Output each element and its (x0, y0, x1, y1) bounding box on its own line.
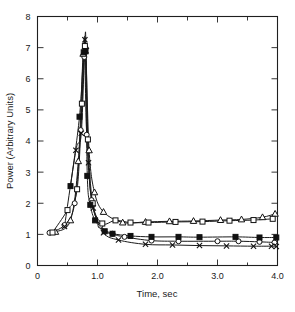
marker-filled-square (93, 218, 98, 223)
y-axis-title: Power (Arbitrary Units) (4, 93, 15, 189)
plot-frame (38, 17, 278, 266)
y-tick-label: 3 (25, 168, 30, 178)
y-tick-label: 7 (25, 43, 30, 53)
marker-filled-square (68, 184, 73, 189)
x-tick-label: 2.0 (151, 271, 164, 281)
x-axis-title: Time, sec (137, 288, 178, 299)
marker-filled-square (149, 234, 154, 239)
marker-open-square (146, 220, 151, 225)
marker-open-square (50, 230, 55, 235)
marker-open-square (65, 208, 70, 213)
marker-open-square (251, 218, 256, 223)
x-tick-label: 0 (35, 271, 40, 281)
marker-filled-square (176, 234, 181, 239)
marker-open-triangle (91, 189, 97, 195)
x-axis-tick-labels: 01.02.03.04.0 (35, 271, 284, 281)
marker-open-square (113, 218, 118, 223)
marker-open-square (128, 220, 133, 225)
y-tick-label: 1 (25, 230, 30, 240)
marker-filled-square (274, 235, 279, 240)
power-vs-time-chart: 01.02.03.04.0 012345678 Time, sec Power … (0, 0, 295, 312)
marker-open-square (173, 219, 178, 224)
x-axis-ticks (38, 17, 278, 266)
y-tick-label: 4 (25, 136, 30, 146)
marker-filled-square (197, 235, 202, 240)
y-tick-label: 5 (25, 105, 30, 115)
marker-open-square (100, 221, 105, 226)
marker-open-square (270, 216, 275, 221)
y-axis-tick-labels: 012345678 (25, 12, 30, 271)
x-tick-label: 4.0 (271, 271, 284, 281)
y-tick-label: 2 (25, 199, 30, 209)
curve-filled-square (71, 40, 277, 238)
x-tick-label: 3.0 (211, 271, 224, 281)
marker-open-square (82, 44, 87, 49)
x-tick-label: 1.0 (91, 271, 104, 281)
data-markers (47, 37, 279, 249)
marker-open-square (85, 137, 90, 142)
marker-filled-square (77, 114, 82, 119)
y-tick-label: 0 (25, 261, 30, 271)
figure-container: 01.02.03.04.0 012345678 Time, sec Power … (0, 0, 295, 312)
curve-cross-x (65, 32, 277, 247)
marker-filled-square (128, 233, 133, 238)
marker-open-circle (215, 239, 220, 244)
data-curves (50, 32, 277, 247)
marker-open-square (79, 101, 84, 106)
y-tick-label: 6 (25, 74, 30, 84)
marker-open-circle (72, 201, 77, 206)
y-axis-ticks (38, 17, 278, 266)
marker-open-square (75, 187, 80, 192)
marker-filled-square (233, 234, 238, 239)
marker-open-square (227, 218, 232, 223)
marker-open-triangle (75, 158, 81, 164)
marker-filled-square (110, 231, 115, 236)
y-tick-label: 8 (25, 12, 30, 22)
marker-open-square (200, 219, 205, 224)
marker-filled-square (257, 235, 262, 240)
marker-open-circle (122, 234, 127, 239)
marker-filled-square (85, 173, 90, 178)
marker-open-triangle (67, 217, 73, 223)
